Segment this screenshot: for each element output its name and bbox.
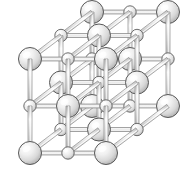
crystal-lattice-canvas [0, 0, 196, 170]
bond-rod [135, 83, 139, 130]
bond-rod [104, 59, 108, 106]
bond-rod [28, 59, 32, 106]
bond-rod [166, 12, 170, 59]
large-atom [19, 142, 42, 165]
bond-rod [66, 106, 70, 153]
small-atom [62, 147, 74, 159]
crystal-lattice-figure [0, 0, 196, 170]
large-atom [95, 142, 118, 165]
